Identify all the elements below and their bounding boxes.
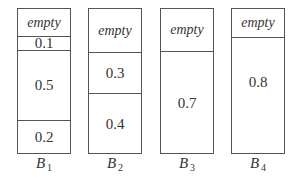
bin-segment-empty: empty xyxy=(89,9,141,52)
bin-label: B1 xyxy=(17,155,71,173)
bin-segment: 0.3 xyxy=(89,52,141,93)
bin-segment: 0.7 xyxy=(161,51,213,154)
bin-b2: empty 0.3 0.4 xyxy=(88,8,142,154)
bin-b1: empty 0.1 0.5 0.2 xyxy=(17,8,71,154)
bin-label: B2 xyxy=(88,155,142,173)
bin-segment-empty: empty xyxy=(232,9,284,37)
bin-segment-empty: empty xyxy=(161,9,213,51)
bin-segment: 0.1 xyxy=(18,36,70,50)
bin-label: B3 xyxy=(160,155,214,173)
bin-segment: 0.2 xyxy=(18,120,70,154)
bin-segment: 0.4 xyxy=(89,93,141,154)
bin-b3: empty 0.7 xyxy=(160,8,214,154)
bin-b4: empty 0.8 xyxy=(231,8,285,154)
bin-segment-empty: empty xyxy=(18,9,70,36)
bin-segment: 0.5 xyxy=(18,50,70,120)
bin-label: B4 xyxy=(231,155,285,173)
bin-segment: 0.8 xyxy=(232,37,284,154)
